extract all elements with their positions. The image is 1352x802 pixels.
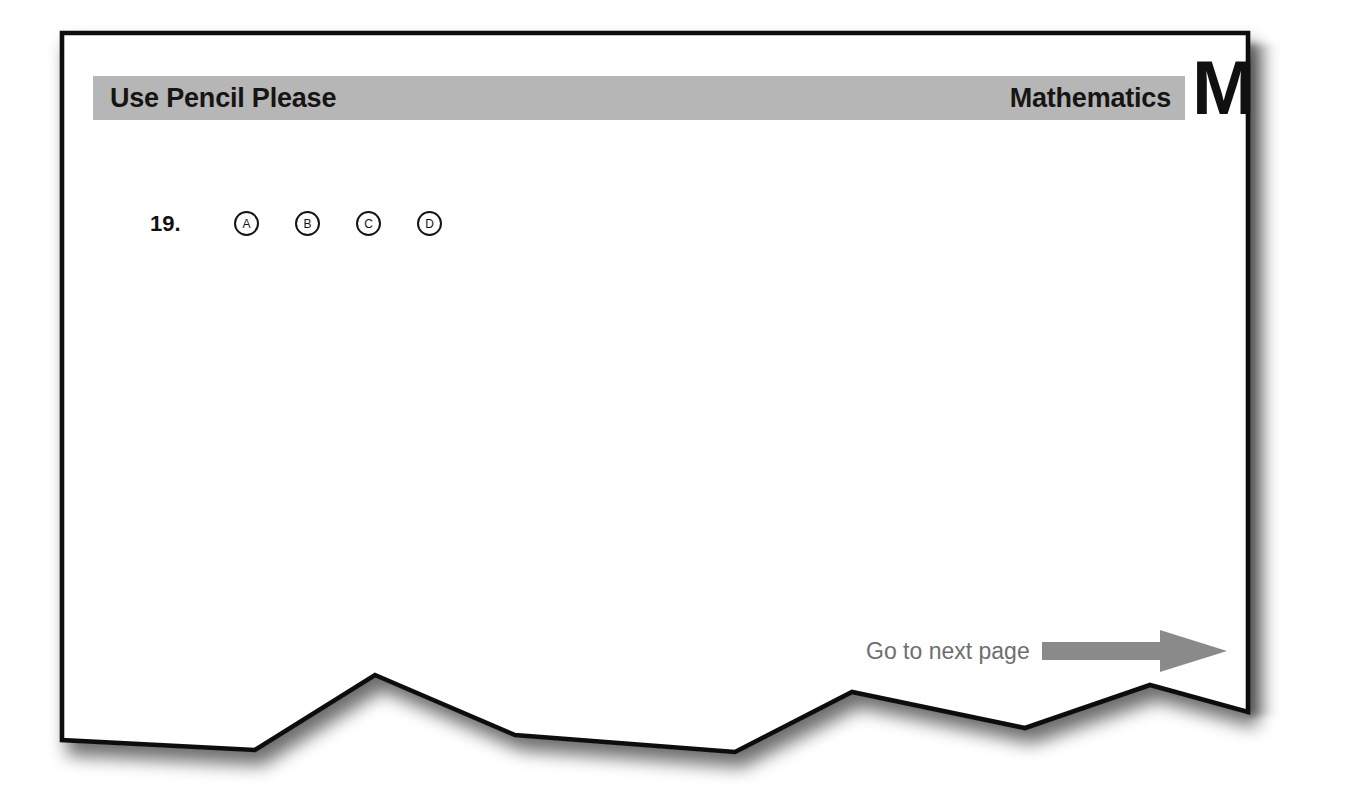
header-bar: Use Pencil Please Mathematics xyxy=(93,76,1185,120)
subject-label: Mathematics xyxy=(1010,85,1171,112)
answer-bubbles: A B C D xyxy=(234,211,442,236)
question-number: 19. xyxy=(150,213,234,235)
answer-sheet-page: Use Pencil Please Mathematics M 19. A B … xyxy=(0,0,1352,802)
next-page-label: Go to next page xyxy=(866,640,1030,663)
question-row: 19. A B C D xyxy=(150,211,442,236)
answer-bubble-b[interactable]: B xyxy=(295,211,320,236)
answer-bubble-a[interactable]: A xyxy=(234,211,259,236)
pencil-instruction-label: Use Pencil Please xyxy=(110,85,336,112)
answer-bubble-d[interactable]: D xyxy=(417,211,442,236)
right-arrow-icon xyxy=(1042,630,1227,672)
subject-letter: M xyxy=(1192,50,1253,126)
answer-bubble-c[interactable]: C xyxy=(356,211,381,236)
next-page-indicator: Go to next page xyxy=(866,630,1227,672)
